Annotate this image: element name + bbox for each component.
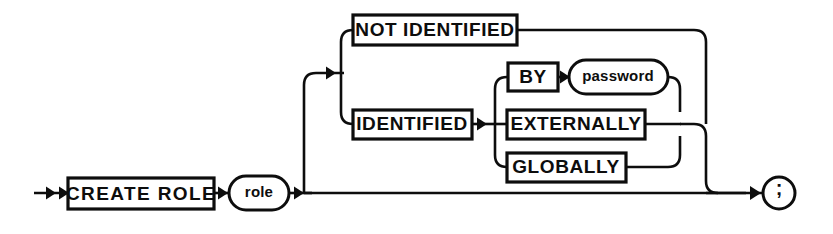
not-identified-label: NOT IDENTIFIED bbox=[355, 19, 514, 40]
terminator-label: ; bbox=[776, 177, 783, 199]
terminator-arrow-icon bbox=[750, 186, 761, 200]
node-by[interactable]: BY bbox=[508, 63, 558, 91]
connector-identified-to-inner-fork bbox=[472, 118, 496, 131]
node-role[interactable]: role bbox=[229, 176, 289, 210]
arrow-icon-options-fork bbox=[326, 67, 336, 80]
rail-password-to-inner-merge bbox=[668, 77, 680, 112]
password-label: password bbox=[582, 67, 654, 84]
exit-arrow-group bbox=[706, 186, 762, 200]
railroad-diagram: CREATE ROLE role NOT IDENTIFIED bbox=[0, 0, 833, 234]
node-password[interactable]: password bbox=[569, 60, 668, 94]
identified-label: IDENTIFIED bbox=[356, 113, 468, 134]
node-globally[interactable]: GLOBALLY bbox=[507, 153, 626, 182]
by-label: BY bbox=[519, 66, 547, 87]
arrow-icon-after-role bbox=[294, 187, 304, 200]
syntax-diagram-canvas: CREATE ROLE role NOT IDENTIFIED bbox=[0, 0, 833, 234]
node-externally[interactable]: EXTERNALLY bbox=[507, 110, 645, 139]
externally-label: EXTERNALLY bbox=[511, 113, 642, 134]
entry-arrow-icon-1 bbox=[46, 187, 56, 200]
globally-label: GLOBALLY bbox=[512, 156, 620, 177]
branch-up-to-options bbox=[304, 67, 344, 194]
arrow-icon-inner-fork bbox=[477, 118, 487, 131]
arrow-icon-to-role bbox=[218, 187, 228, 200]
rail-globally-to-inner-merge bbox=[626, 136, 680, 167]
node-not-identified[interactable]: NOT IDENTIFIED bbox=[353, 15, 517, 45]
create-role-label: CREATE ROLE bbox=[66, 183, 216, 204]
entry-arrow-group bbox=[34, 187, 69, 200]
role-label: role bbox=[245, 183, 273, 200]
node-create-role[interactable]: CREATE ROLE bbox=[66, 178, 216, 209]
node-terminator[interactable]: ; bbox=[763, 177, 795, 209]
rail-inner-merge-to-exit bbox=[680, 124, 718, 193]
node-identified[interactable]: IDENTIFIED bbox=[353, 110, 472, 139]
